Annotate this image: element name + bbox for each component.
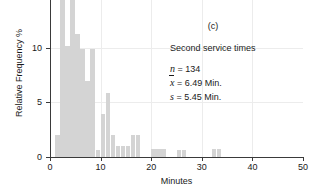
- x-axis-tick-label: 0: [35, 162, 65, 172]
- histogram-bar: [217, 149, 221, 157]
- histogram-bar: [70, 0, 74, 157]
- histogram-bar: [65, 46, 69, 157]
- histogram-bar: [101, 114, 105, 157]
- x-axis-tick-label: 20: [136, 162, 166, 172]
- y-axis-tick-label: 0: [18, 152, 42, 162]
- x-axis-title: Minutes: [50, 176, 303, 186]
- histogram-bar: [151, 149, 155, 157]
- statistic-line: n = 134: [170, 62, 295, 76]
- x-axis-tick: [202, 157, 203, 161]
- histogram-bar: [156, 149, 160, 157]
- histogram-bar: [80, 49, 84, 157]
- x-axis-tick: [151, 157, 152, 161]
- x-axis-tick-label: 10: [86, 162, 116, 172]
- histogram-bar: [85, 81, 89, 157]
- histogram-bar: [212, 149, 216, 157]
- y-axis-tick: [46, 102, 50, 103]
- histogram-bar: [106, 93, 110, 157]
- histogram-bar: [161, 149, 165, 157]
- histogram-bar: [126, 146, 130, 157]
- histogram-figure: Minutes Relative Frequency % (c) Second …: [0, 0, 317, 195]
- statistic-line: x = 6.49 Min.: [170, 76, 295, 90]
- gridline-vertical: [151, 0, 152, 157]
- statistic-value: = 6.49 Min.: [174, 78, 221, 88]
- statistic-symbol: x: [170, 76, 174, 89]
- panel-label: (c): [170, 20, 256, 33]
- annotation-title: Second service times: [170, 42, 295, 55]
- histogram-bar: [90, 49, 94, 157]
- statistic-value: = 134: [175, 64, 200, 74]
- statistics-list: n = 134x = 6.49 Min.s = 5.45 Min.: [170, 62, 295, 104]
- annotation-block: (c) Second service times n = 134x = 6.49…: [170, 20, 295, 104]
- x-axis-tick-label: 40: [237, 162, 267, 172]
- y-axis-tick-label: 5: [18, 97, 42, 107]
- histogram-bar: [121, 146, 125, 157]
- statistic-line: s = 5.45 Min.: [170, 90, 295, 104]
- x-axis-tick: [303, 157, 304, 161]
- x-axis-tick-label: 30: [187, 162, 217, 172]
- histogram-bar: [116, 146, 120, 157]
- histogram-bar: [131, 135, 135, 157]
- histogram-bar: [55, 135, 59, 157]
- y-axis-tick-label: 10: [18, 43, 42, 53]
- histogram-bar: [111, 135, 115, 157]
- histogram-bar: [136, 135, 140, 157]
- histogram-bar: [60, 0, 64, 157]
- y-axis-title: Relative Frequency %: [14, 3, 24, 143]
- x-axis-tick: [101, 157, 102, 161]
- y-axis-tick: [46, 48, 50, 49]
- y-axis-line: [50, 0, 51, 158]
- x-axis-tick: [252, 157, 253, 161]
- x-axis-tick: [50, 157, 51, 161]
- y-axis-tick: [46, 157, 50, 158]
- statistic-value: = 5.45 Min.: [174, 92, 221, 102]
- histogram-bar: [75, 34, 79, 157]
- x-axis-tick-label: 50: [288, 162, 317, 172]
- x-axis-line: [50, 157, 303, 158]
